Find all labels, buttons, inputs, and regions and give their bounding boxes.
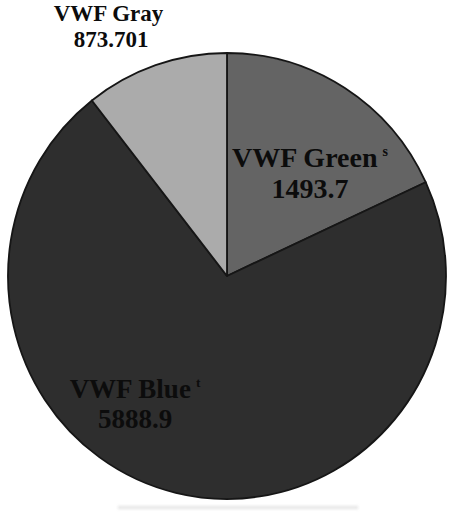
slice-value-text: 1493.7: [230, 173, 390, 204]
pie-chart: [0, 0, 453, 514]
label-vwf-blue: VWF Bluet 5888.9: [55, 374, 215, 434]
slice-label-line: VWF Gray: [31, 1, 191, 27]
slice-label-line: VWF Bluet: [55, 374, 215, 404]
pie-chart-figure: VWF Gray 873.701 VWF Greens 1493.7 VWF B…: [0, 0, 453, 514]
label-vwf-green: VWF Greens 1493.7: [230, 142, 390, 205]
slice-label-line: VWF Greens: [230, 142, 390, 173]
footnote-marker: t: [196, 375, 201, 390]
slice-label-text: VWF Green: [232, 142, 377, 173]
slice-label-text: VWF Gray: [54, 1, 164, 26]
label-vwf-gray: VWF Gray 873.701: [31, 1, 191, 53]
slice-value-text: 873.701: [31, 27, 191, 53]
slice-value-text: 5888.9: [55, 404, 215, 434]
scan-artifact: [118, 506, 358, 509]
footnote-marker: s: [382, 144, 387, 159]
slice-label-text: VWF Blue: [70, 374, 191, 404]
